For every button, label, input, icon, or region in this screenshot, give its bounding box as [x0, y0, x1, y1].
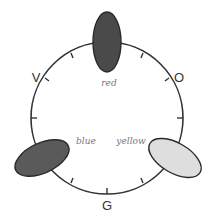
blue-label: blue	[76, 136, 96, 146]
tick-mark	[71, 178, 73, 183]
red-blob	[93, 12, 121, 72]
green-marker-label: G	[102, 198, 112, 213]
tick-mark	[45, 78, 49, 81]
yellow-label: yellow	[115, 136, 146, 146]
tick-mark	[71, 53, 73, 58]
tick-mark	[141, 178, 143, 183]
violet-marker-label: V	[32, 70, 41, 85]
color-wheel-diagram: red blue yellow V O G	[0, 0, 211, 224]
tick-mark	[165, 78, 169, 81]
red-label: red	[101, 78, 117, 88]
orange-marker-label: O	[174, 70, 184, 85]
blue-blob	[9, 132, 74, 184]
yellow-blob	[142, 131, 207, 186]
tick-mark	[141, 53, 143, 58]
